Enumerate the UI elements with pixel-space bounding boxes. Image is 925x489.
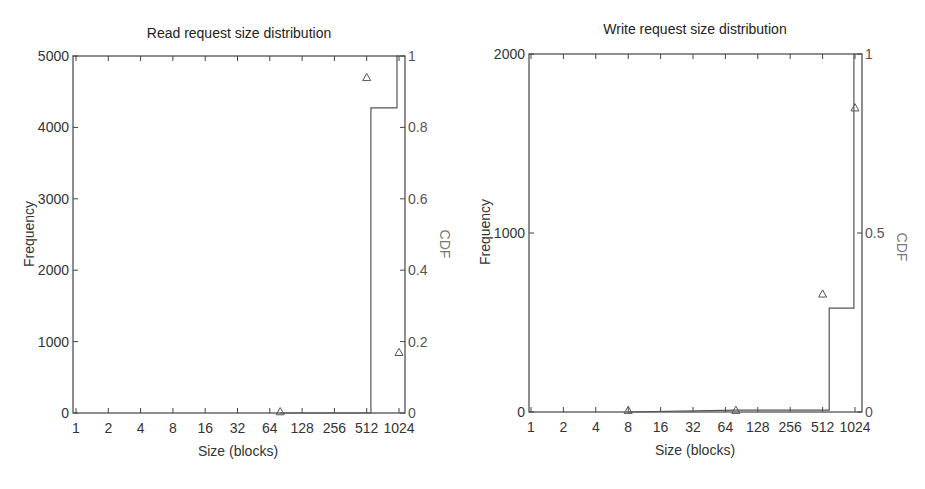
chart-title: Write request size distribution xyxy=(603,21,786,37)
frequency-point xyxy=(395,348,403,355)
frequency-point xyxy=(276,408,284,415)
y2-tick-label: 0.4 xyxy=(408,262,428,278)
plot-frame xyxy=(529,54,862,412)
read-size-chart: Read request size distribution Size (blo… xyxy=(21,25,453,459)
chart-title: Read request size distribution xyxy=(147,25,331,41)
x-tick-label: 64 xyxy=(718,419,734,435)
x-tick-label: 512 xyxy=(355,420,379,436)
y-tick-label: 5000 xyxy=(38,48,69,64)
x-axis-label: Size (blocks) xyxy=(198,443,278,459)
y2-tick-label: 1 xyxy=(865,46,873,62)
x-tick-label: 2 xyxy=(104,420,112,436)
cdf-step-line xyxy=(628,54,855,412)
x-tick-label: 32 xyxy=(685,419,701,435)
y-tick-label: 4000 xyxy=(38,119,69,135)
x-tick-label: 32 xyxy=(230,420,246,436)
y2-tick-label: 0.2 xyxy=(408,334,428,350)
x-tick-label: 16 xyxy=(653,419,669,435)
frequency-point xyxy=(851,104,859,111)
write-size-chart: Write request size distribution Size (bl… xyxy=(477,21,910,458)
x-tick-label: 8 xyxy=(169,420,177,436)
y-tick-label: 2000 xyxy=(38,262,69,278)
x-tick-label: 4 xyxy=(137,420,145,436)
y2-tick-label: 0.5 xyxy=(865,225,885,241)
x-tick-label: 128 xyxy=(290,420,314,436)
y-tick-label: 1000 xyxy=(494,225,525,241)
y-tick-label: 2000 xyxy=(494,46,525,62)
plot-frame xyxy=(73,56,405,413)
x-tick-label: 256 xyxy=(323,420,347,436)
x-tick-label: 1 xyxy=(72,420,80,436)
x-tick-label: 1024 xyxy=(383,420,414,436)
y2-tick-label: 1 xyxy=(408,48,416,64)
x-tick-label: 64 xyxy=(262,420,278,436)
x-tick-label: 1024 xyxy=(839,419,870,435)
y-tick-label: 1000 xyxy=(38,334,69,350)
frequency-point xyxy=(819,290,827,297)
x-tick-label: 16 xyxy=(197,420,213,436)
x-tick-label: 2 xyxy=(560,419,568,435)
x-tick-label: 8 xyxy=(624,419,632,435)
y-axis-label: Frequency xyxy=(477,199,493,265)
x-tick-label: 128 xyxy=(746,419,770,435)
x-tick-label: 4 xyxy=(592,419,600,435)
x-tick-label: 512 xyxy=(811,419,835,435)
x-tick-label: 1 xyxy=(527,419,535,435)
cdf-step-line xyxy=(280,56,399,413)
y2-tick-label: 0 xyxy=(865,404,873,420)
y2-tick-label: 0.6 xyxy=(408,191,428,207)
y2-tick-label: 0.8 xyxy=(408,119,428,135)
y-tick-label: 0 xyxy=(517,404,525,420)
y2-tick-label: 0 xyxy=(408,405,416,421)
y2-axis-label: CDF xyxy=(894,233,910,262)
y2-axis-label: CDF xyxy=(437,230,453,259)
x-tick-label: 256 xyxy=(779,419,803,435)
chart-figure: Read request size distribution Size (blo… xyxy=(0,0,925,489)
y-axis-label: Frequency xyxy=(21,201,37,267)
y-tick-label: 0 xyxy=(61,405,69,421)
y-tick-label: 3000 xyxy=(38,191,69,207)
x-axis-label: Size (blocks) xyxy=(655,442,735,458)
frequency-point xyxy=(363,73,371,80)
